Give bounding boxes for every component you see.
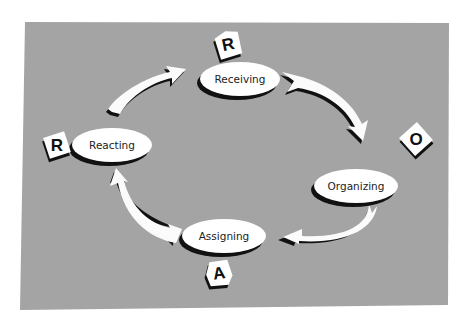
node-reacting-label: Reacting	[89, 139, 135, 151]
tile-assigning-letter: A	[212, 263, 227, 284]
rora-cycle-diagram: Receiving Reacting Organizing Assigning …	[0, 0, 468, 324]
node-assigning-label: Assigning	[199, 230, 250, 242]
node-organizing-label: Organizing	[328, 180, 385, 192]
node-receiving-label: Receiving	[215, 73, 266, 85]
tile-organizing-letter: O	[409, 130, 422, 149]
tile-reacting-letter: R	[51, 136, 63, 155]
